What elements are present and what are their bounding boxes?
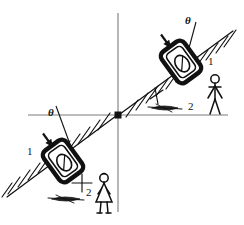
man-arm-right <box>215 86 222 98</box>
slope-label-one-upper: 1 <box>208 56 214 67</box>
girl-leg-right <box>107 202 108 213</box>
girl-leg-left <box>100 202 101 213</box>
man-figure <box>208 75 222 114</box>
man-arm-left <box>208 86 215 98</box>
man-leg-left <box>210 99 215 114</box>
lower-speaker-box[interactable] <box>32 125 86 184</box>
man-leg-right <box>215 99 220 114</box>
figure-canvas: θ 1 2 θ 1 2 <box>0 0 244 225</box>
man-head <box>211 75 219 83</box>
slope-label-two-lower: 2 <box>86 187 92 198</box>
diagram-svg <box>0 0 244 225</box>
lower-smudge <box>48 195 84 203</box>
girl-figure <box>96 173 112 213</box>
slope-label-one-lower: 1 <box>27 146 33 157</box>
theta-label-upper: θ <box>185 15 191 26</box>
origin-marker <box>115 112 122 119</box>
upper-smudge <box>148 104 182 112</box>
theta-label-lower: θ <box>48 107 54 118</box>
slope-label-two-upper: 2 <box>188 101 194 112</box>
upper-speaker-box[interactable] <box>150 26 204 85</box>
